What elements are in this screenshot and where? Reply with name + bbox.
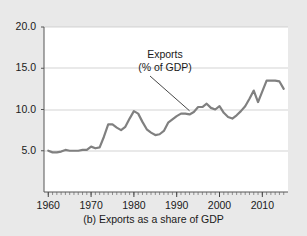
x-tick-label: 2010 — [242, 199, 282, 211]
y-tick-label: 10.0 — [4, 103, 36, 115]
x-tick-label: 1980 — [114, 199, 154, 211]
x-tick-label: 1970 — [71, 199, 111, 211]
figure-caption: (b) Exports as a share of GDP — [0, 213, 307, 225]
x-tick-label: 1990 — [157, 199, 197, 211]
x-tick-label: 2000 — [200, 199, 240, 211]
series-annotation-title: Exports — [120, 48, 210, 60]
chart-figure: 20.0 15.0 10.0 5.0 1960 1970 1980 1990 2… — [0, 0, 307, 236]
series-annotation-subtitle: (% of GDP) — [120, 61, 210, 73]
y-tick-label: 5.0 — [4, 144, 36, 156]
x-tick-label: 1960 — [28, 199, 68, 211]
y-tick-label: 20.0 — [4, 20, 36, 32]
y-tick-label: 15.0 — [4, 61, 36, 73]
